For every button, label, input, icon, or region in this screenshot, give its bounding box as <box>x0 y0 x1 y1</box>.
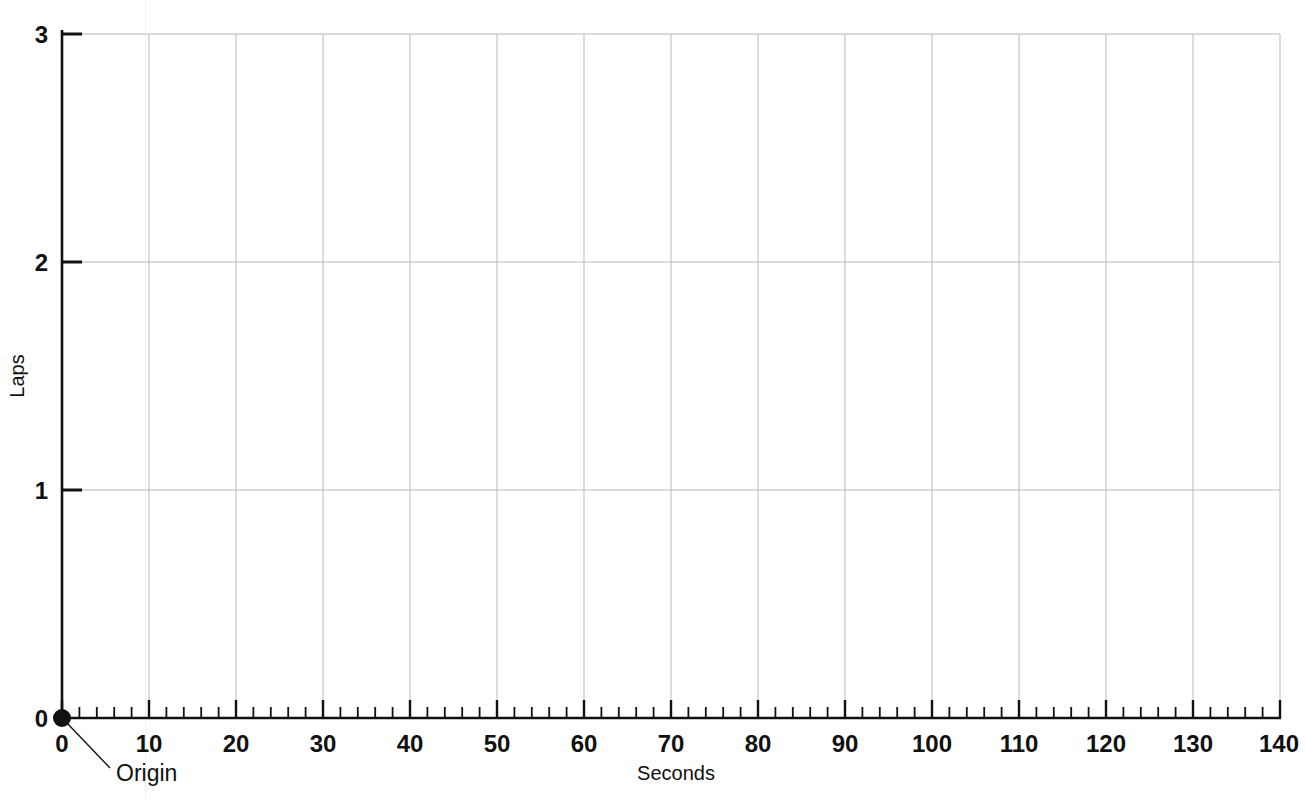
x-tick-label-70: 70 <box>658 730 685 757</box>
x-tick-label-140: 140 <box>1259 730 1299 757</box>
x-tick-label-90: 90 <box>832 730 859 757</box>
y-axis-ticks <box>62 34 82 490</box>
x-tick-label-0: 0 <box>55 730 68 757</box>
laps-vs-seconds-plot: 3 2 1 0 0 10 20 30 40 50 60 70 80 90 100… <box>0 0 1306 800</box>
graph-canvas: 3 2 1 0 0 10 20 30 40 50 60 70 80 90 100… <box>0 0 1306 800</box>
x-tick-label-100: 100 <box>912 730 952 757</box>
y-tick-label-2: 2 <box>35 249 48 276</box>
origin-annotation-label: Origin <box>116 760 177 786</box>
x-axis-major-ticks <box>62 700 1280 718</box>
x-tick-label-110: 110 <box>1000 730 1039 757</box>
x-tick-label-120: 120 <box>1086 730 1126 757</box>
x-tick-label-30: 30 <box>310 730 337 757</box>
x-tick-label-10: 10 <box>136 730 163 757</box>
x-axis-title: Seconds <box>637 762 715 784</box>
y-tick-label-1: 1 <box>35 477 48 504</box>
vertical-gridlines <box>149 34 1280 718</box>
x-tick-label-40: 40 <box>397 730 424 757</box>
origin-point-marker <box>53 709 71 727</box>
origin-leader-line <box>66 722 110 768</box>
x-tick-label-130: 130 <box>1173 730 1213 757</box>
y-tick-label-0: 0 <box>35 705 48 732</box>
x-tick-label-80: 80 <box>745 730 772 757</box>
x-tick-label-60: 60 <box>571 730 598 757</box>
x-tick-label-50: 50 <box>484 730 511 757</box>
x-tick-label-20: 20 <box>223 730 250 757</box>
y-tick-label-3: 3 <box>35 21 48 48</box>
y-axis-title: Laps <box>6 354 28 397</box>
